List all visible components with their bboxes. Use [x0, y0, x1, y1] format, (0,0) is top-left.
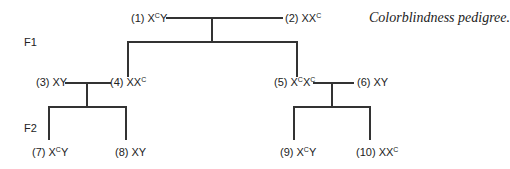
figure-title: Colorblindness pedigree. [369, 10, 510, 26]
individual-9: (9) XCY [280, 146, 316, 158]
individual-7: (7) XCY [32, 146, 68, 158]
descent-line-5 [296, 41, 298, 77]
descent-line-9 [293, 106, 295, 140]
individual-4: (4) XXC [110, 76, 146, 88]
individual-5: (5) XCXC [274, 76, 315, 88]
descent-line-4 [127, 41, 129, 77]
generation-label-f1: F1 [24, 36, 37, 48]
mating-line-5-6 [313, 82, 354, 84]
individual-8: (8) XY [115, 146, 146, 158]
descent-line-3-4 [86, 82, 88, 107]
individual-2: (2) XXC [285, 12, 321, 24]
individual-6: (6) XY [357, 76, 388, 88]
generation-label-f2: F2 [24, 122, 37, 134]
descent-line-7 [48, 106, 50, 140]
sibship-line-f2-right [293, 106, 371, 108]
sibship-line-f1 [127, 41, 298, 43]
descent-line-10 [369, 106, 371, 140]
mating-line-1-2 [166, 17, 283, 19]
mating-line-3-4 [65, 82, 111, 84]
individual-10: (10) XXC [356, 146, 398, 158]
descent-line-p [211, 17, 213, 42]
descent-line-8 [125, 106, 127, 140]
descent-line-5-6 [331, 82, 333, 107]
individual-1: (1) XCY [131, 12, 167, 24]
sibship-line-f2-left [48, 106, 127, 108]
individual-3: (3) XY [36, 76, 67, 88]
